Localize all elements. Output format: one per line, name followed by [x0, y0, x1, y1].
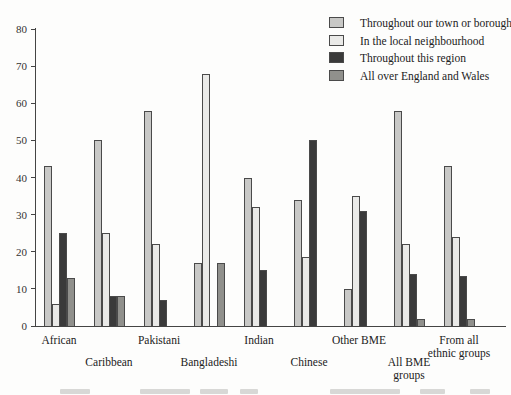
y-tick-mark [31, 140, 35, 141]
bar-in-the-local-neighbourhood-bangladeshi [202, 74, 210, 326]
y-tick-mark [31, 66, 35, 67]
category-label-indian: Indian [213, 334, 305, 347]
y-tick-mark [31, 326, 35, 327]
caption-fragment-mark [330, 389, 400, 394]
caption-fragment-mark [200, 389, 228, 394]
bar-all-over-england-and-wales-bangladeshi [217, 263, 225, 326]
caption-fragment-mark [470, 389, 490, 394]
y-tick-label: 80 [1, 24, 27, 35]
legend-swatch-icon [329, 17, 344, 28]
category-label-other-bme: Other BME [313, 334, 405, 347]
caption-fragment-mark [420, 389, 445, 394]
legend-swatch-icon [329, 52, 344, 63]
caption-fragment-mark [140, 389, 190, 394]
bar-throughout-this-region-chinese [309, 140, 317, 326]
bar-throughout-this-region-pakistani [159, 300, 167, 326]
y-tick-label: 60 [1, 98, 27, 109]
category-label-pakistani: Pakistani [113, 334, 205, 347]
y-tick-label: 50 [1, 135, 27, 146]
bar-all-over-england-and-wales-from-all-ethnic-groups [467, 319, 475, 326]
y-tick-mark [31, 214, 35, 215]
caption-fragment-mark [60, 389, 90, 394]
bar-all-over-england-and-wales-all-bme-groups [417, 319, 425, 326]
y-axis-line [35, 28, 36, 326]
bar-throughout-this-region-other-bme [359, 211, 367, 326]
category-label-chinese: Chinese [263, 356, 355, 369]
y-tick-mark [31, 29, 35, 30]
legend-swatch-icon [329, 70, 344, 81]
y-tick-label: 30 [1, 210, 27, 221]
y-tick-mark [31, 251, 35, 252]
bar-chart-figure: 01020304050607080 AfricanCaribbeanPakist… [0, 0, 511, 395]
x-axis-line [35, 326, 506, 327]
bar-throughout-this-region-indian [259, 270, 267, 326]
legend-label: Throughout our town or borough [360, 16, 511, 30]
bar-throughout-our-town-or-borough-african [44, 166, 52, 326]
bar-all-over-england-and-wales-african [67, 278, 75, 326]
y-tick-label: 10 [1, 284, 27, 295]
legend-label: All over England and Wales [360, 69, 489, 83]
y-tick-mark [31, 177, 35, 178]
category-label-from-all-ethnic-groups: From all ethnic groups [413, 334, 505, 360]
legend-label: Throughout this region [360, 51, 466, 65]
y-tick-mark [31, 103, 35, 104]
legend-label: In the local neighbourhood [360, 34, 484, 48]
y-tick-label: 40 [1, 173, 27, 184]
y-tick-label: 0 [1, 321, 27, 332]
clipped-caption-remnant [0, 388, 511, 395]
y-tick-mark [31, 288, 35, 289]
y-tick-label: 20 [1, 247, 27, 258]
caption-fragment-mark [240, 389, 258, 394]
category-label-bangladeshi: Bangladeshi [163, 356, 255, 369]
bar-all-over-england-and-wales-caribbean [117, 296, 125, 326]
legend-swatch-icon [329, 35, 344, 46]
category-label-caribbean: Caribbean [63, 356, 155, 369]
y-tick-label: 70 [1, 61, 27, 72]
category-label-african: African [13, 334, 105, 347]
